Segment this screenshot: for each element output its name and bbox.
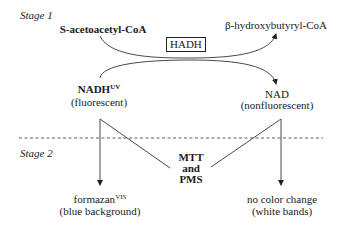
product-label: β-hydroxybutyryl-CoA [225,19,327,31]
no-change-note: (white bands) [252,205,312,217]
enzyme-box: HADH [166,37,206,52]
formazan-name: formazan [74,193,116,205]
reagent-pms: PMS [178,174,203,185]
enzyme-label: HADH [170,38,202,50]
nadh-name: NADH [78,83,110,95]
stage-1-label: Stage 1 [20,9,53,21]
substrate-label: S-acetoacetyl-CoA [60,23,147,35]
nad-note: (nonfluorescent) [241,99,314,111]
nadh-superscript: UV [110,83,120,91]
formazan-note: (blue background) [60,205,141,217]
formazan-label: formazanVIS [74,193,127,205]
no-change-label: no color change [247,193,317,205]
formazan-superscript: VIS [115,193,126,201]
stage-2-label: Stage 2 [20,147,53,159]
reagents-label: MTT and PMS [178,152,203,185]
nadh-note: (fluorescent) [71,96,127,108]
nadh-to-nad-curve [100,60,276,84]
nadh-label: NADHUV [78,83,121,95]
